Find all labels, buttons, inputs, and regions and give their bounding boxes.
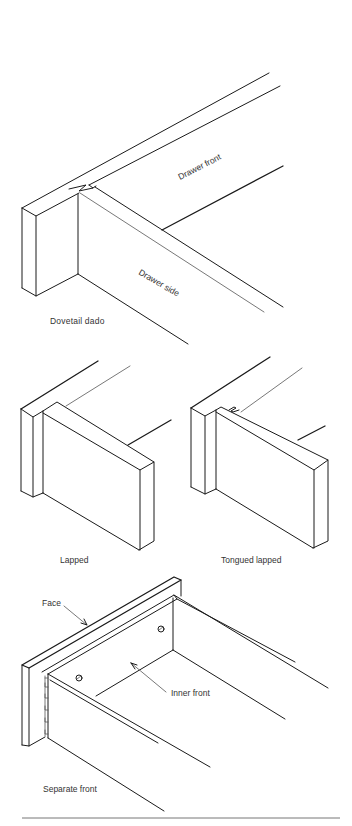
dovetail-dado-drawing (22, 73, 283, 344)
drawer-joints-figure: Drawer front Drawer side Lapped (0, 0, 352, 826)
lapped-caption: Lapped (60, 555, 89, 565)
inner-front-label: Inner front (171, 688, 210, 698)
drawer-front-label: Drawer front (176, 151, 223, 181)
separate-front-caption: Separate front (43, 784, 98, 794)
face-label: Face (42, 598, 61, 608)
tongued-lapped-drawing (191, 357, 328, 548)
tongued-lapped-caption: Tongued lapped (221, 555, 282, 565)
dovetail-dado-caption: Dovetail dado (50, 316, 105, 326)
lapped-drawing (21, 361, 171, 550)
drawer-side-label: Drawer side (137, 267, 182, 298)
